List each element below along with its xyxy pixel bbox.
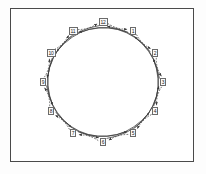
graph-edge-7-to-8 [55,115,69,129]
dashed-edge-group [44,23,161,140]
graph-edge-3-to-4 [157,87,162,105]
graph-node-5[interactable]: 5 [130,129,136,137]
graph-node-label: 6 [102,140,105,145]
graph-edge-4-to-5 [137,115,151,129]
graph-node-label: 8 [50,109,53,114]
graph-node-label: 7 [72,131,75,136]
graph-node-9[interactable]: 9 [40,78,46,86]
graph-node-11[interactable]: 11 [69,27,78,35]
graph-edge-8-to-5 [56,112,127,136]
graph-edge-1-to-2 [137,35,151,49]
graph-canvas [0,0,206,174]
graph-node-label: 3 [162,80,165,85]
graph-edge-9-to-10 [44,59,49,77]
graph-node-10[interactable]: 10 [47,49,56,57]
graph-node-label: 1 [132,29,135,34]
graph-node-label: 12 [100,20,105,25]
figure-root: 123456789101112 [0,0,206,174]
graph-node-12[interactable]: 12 [99,18,108,26]
graph-node-label: 11 [71,29,76,34]
graph-node-8[interactable]: 8 [48,107,54,115]
graph-node-4[interactable]: 4 [152,107,158,115]
graph-node-1[interactable]: 1 [130,27,136,35]
graph-edge-10-to-11 [55,35,69,49]
graph-node-7[interactable]: 7 [70,129,76,137]
graph-node-6[interactable]: 6 [100,138,106,146]
graph-node-label: 2 [154,51,157,56]
graph-edge-2-to-11 [79,28,150,52]
graph-node-2[interactable]: 2 [152,49,158,57]
graph-node-label: 10 [48,51,53,56]
graph-node-label: 4 [154,109,157,114]
graph-node-label: 5 [132,131,135,136]
graph-node-3[interactable]: 3 [160,78,166,86]
graph-node-label: 9 [42,80,45,85]
